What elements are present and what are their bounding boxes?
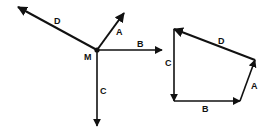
- label-a: A: [116, 27, 123, 37]
- point-m-dot: [94, 47, 99, 52]
- label-m: M: [84, 52, 92, 62]
- vector-diagram: D A M B C D C B A: [0, 0, 269, 133]
- polygon-d-arrow: [174, 29, 255, 60]
- label-d: D: [54, 16, 61, 26]
- polygon-label-c: C: [165, 58, 172, 68]
- label-b: B: [137, 39, 144, 49]
- label-c: C: [100, 86, 107, 96]
- polygon-label-a: A: [251, 81, 258, 91]
- polygon-label-b: B: [202, 104, 209, 114]
- vector-d-arrow: [18, 7, 97, 50]
- polygon-label-d: D: [218, 36, 225, 46]
- vector-polygon: D C B A: [165, 29, 258, 114]
- concurrent-vectors: D A M B C: [18, 7, 162, 126]
